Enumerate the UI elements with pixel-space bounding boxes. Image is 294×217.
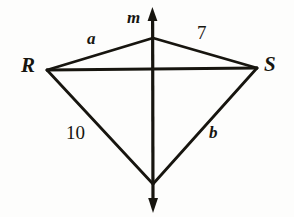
side-label-a: a <box>87 30 96 47</box>
edge-S-bottom <box>153 68 257 184</box>
vertex-label-s: S <box>264 54 276 75</box>
side-label-7: 7 <box>197 23 207 42</box>
side-label-b: b <box>209 124 218 141</box>
geometry-figure: R S m a 7 10 b <box>0 0 294 217</box>
figure-canvas <box>0 0 294 217</box>
line-label-m: m <box>127 9 140 26</box>
edge-R-top <box>47 38 153 70</box>
side-label-10: 10 <box>66 123 85 142</box>
line-m-arrowhead-down <box>148 198 158 213</box>
diagonal-R-S <box>47 68 257 70</box>
line-m-arrowhead-up <box>148 7 158 21</box>
vertex-label-r: R <box>21 55 35 76</box>
edge-bottom-R <box>47 70 153 184</box>
